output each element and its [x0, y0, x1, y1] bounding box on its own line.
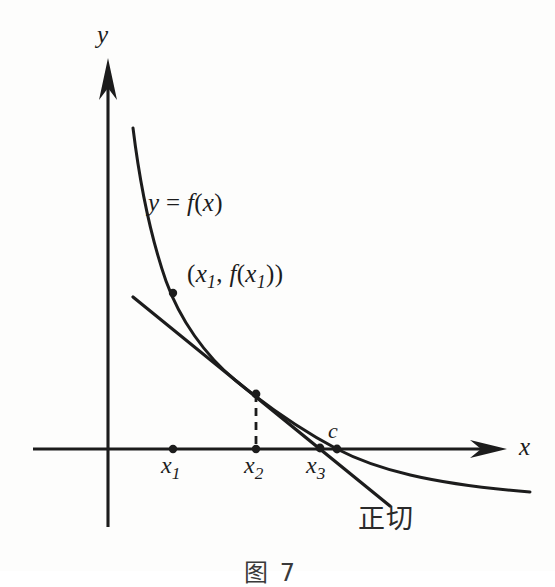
- curve-function-label: y = f(x): [148, 190, 223, 215]
- tick-label-x3: x3: [306, 453, 325, 482]
- point-on-curve-x2: [252, 390, 261, 399]
- tick-x1-letter: x: [161, 452, 172, 478]
- pt-paren-open: (: [187, 260, 196, 287]
- x-axis-label: x: [519, 434, 530, 459]
- axis-point-c: [333, 445, 342, 454]
- tick-label-x2: x2: [244, 453, 263, 482]
- pt-f: f: [229, 260, 236, 287]
- pt-x: x: [196, 260, 207, 287]
- pt-inner-paren-close: ): [266, 260, 275, 287]
- figure-caption: 图 7: [244, 561, 297, 585]
- y-axis: [99, 58, 117, 527]
- tangent-annotation-label: 正切: [358, 505, 414, 532]
- curve-label-x: x: [203, 189, 214, 216]
- point-on-curve-x1: [169, 289, 177, 297]
- tick-x2-subscript: 2: [255, 464, 264, 483]
- curve-label-equals: =: [159, 189, 187, 216]
- pt-subscript-1: 1: [207, 272, 216, 292]
- pt-inner-x: x: [245, 260, 256, 287]
- tick-x3-letter: x: [306, 452, 317, 478]
- tick-x2-letter: x: [244, 452, 255, 478]
- curve-label-paren-close: ): [214, 189, 223, 216]
- y-axis-label: y: [97, 22, 108, 47]
- x-axis: [33, 440, 507, 458]
- pt-paren-close: ): [275, 260, 284, 287]
- tick-label-x1: x1: [161, 453, 180, 482]
- tick-x3-subscript: 3: [317, 464, 326, 483]
- tick-x1-subscript: 1: [172, 464, 181, 483]
- point-coordinate-label: (x1, f(x1)): [187, 261, 283, 291]
- curve-label-paren-open: (: [194, 189, 203, 216]
- root-label-c: c: [328, 420, 338, 442]
- curve-label-y: y: [148, 189, 159, 216]
- pt-comma: ,: [216, 260, 229, 287]
- pt-inner-subscript-1: 1: [257, 272, 266, 292]
